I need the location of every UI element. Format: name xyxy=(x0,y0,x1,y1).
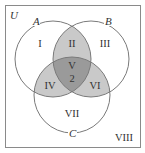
region-iv-label: IV xyxy=(44,80,55,91)
set-b-label: B xyxy=(105,15,112,27)
region-v-value: 2 xyxy=(69,73,74,84)
region-i-label: I xyxy=(38,38,42,49)
venn-diagram: U A B C I II III IV V 2 VI VII VIII xyxy=(0,0,145,153)
universe-label: U xyxy=(10,9,19,21)
set-a-label: A xyxy=(32,15,40,27)
region-vii-label: VII xyxy=(65,108,80,119)
set-c-label: C xyxy=(69,127,77,139)
region-viii-label: VIII xyxy=(115,132,134,143)
region-iii-label: III xyxy=(100,38,111,49)
region-vi-label: VI xyxy=(89,80,101,91)
region-v-label: V xyxy=(68,60,76,71)
region-ii-label: II xyxy=(69,38,76,49)
